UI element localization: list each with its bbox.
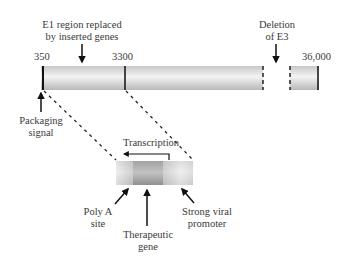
- promoter-line-1: Strong viral: [176, 206, 238, 218]
- expansion-line-right: [126, 91, 193, 160]
- packaging-line-2: signal: [16, 127, 66, 139]
- poly-a-line-1: Poly A: [80, 206, 116, 218]
- position-36000: 36,000: [302, 51, 331, 63]
- e3-deletion-label: Deletion of E3: [250, 19, 304, 43]
- poly-a-label: Poly A site: [80, 206, 116, 230]
- promoter-arrow-icon: [182, 189, 194, 203]
- e1-line-1: E1 region replaced: [30, 19, 134, 31]
- genome-bar: [41, 66, 319, 90]
- transcription-label: Transcription: [110, 137, 192, 149]
- e1-line-2: by inserted genes: [30, 31, 134, 43]
- packaging-line-1: Packaging: [16, 115, 66, 127]
- insert-cassette: [116, 161, 193, 185]
- e3-line-1: Deletion: [250, 19, 304, 31]
- position-350: 350: [34, 51, 50, 63]
- e3-line-2: of E3: [250, 31, 304, 43]
- poly-a-arrow-icon: [115, 189, 128, 204]
- gene-line-2: gene: [118, 241, 178, 253]
- promoter-line-2: promoter: [176, 218, 238, 230]
- packaging-signal-label: Packaging signal: [16, 115, 66, 139]
- position-3300: 3300: [112, 51, 133, 63]
- poly-a-line-2: site: [80, 218, 116, 230]
- e1-region-label: E1 region replaced by inserted genes: [30, 19, 134, 43]
- gene-line-1: Therapeutic: [118, 229, 178, 241]
- therapeutic-gene-label: Therapeutic gene: [118, 229, 178, 253]
- transcription-arrow-icon: [124, 154, 169, 160]
- promoter-label: Strong viral promoter: [176, 206, 238, 230]
